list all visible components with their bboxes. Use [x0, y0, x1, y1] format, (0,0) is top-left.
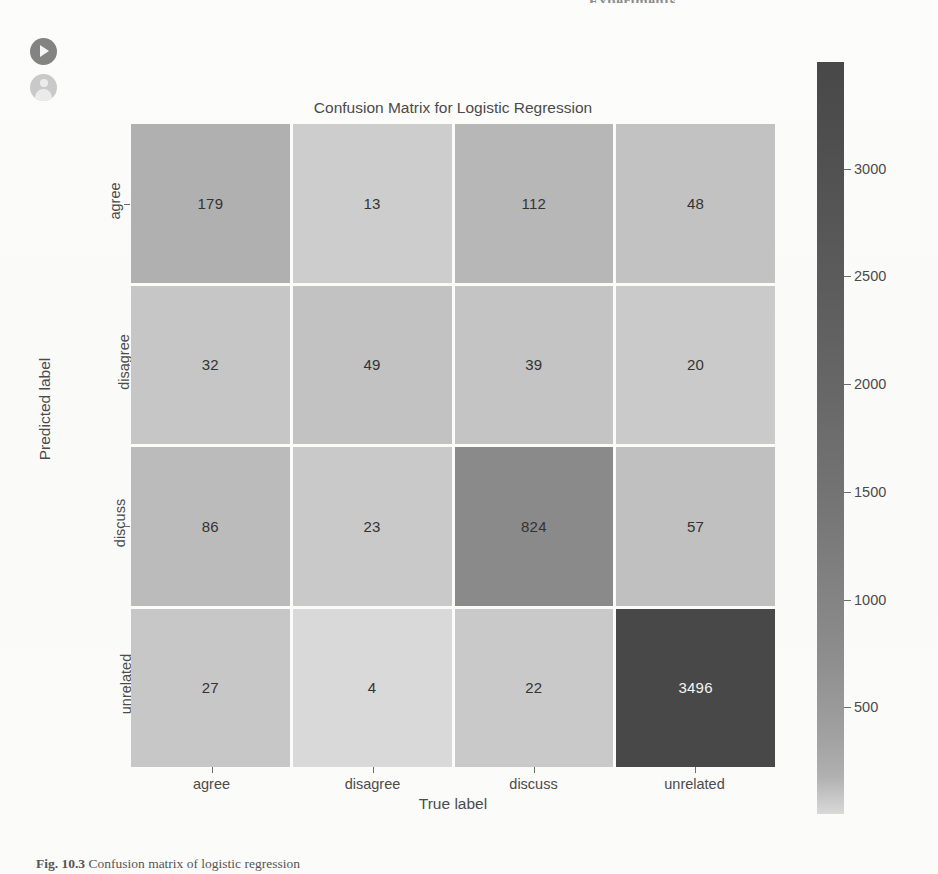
- matrix-cell: 32: [131, 286, 290, 445]
- y-tick-label: discuss: [96, 515, 122, 531]
- matrix-cell-value: 57: [687, 518, 704, 535]
- matrix-cell-value: 3496: [679, 679, 713, 696]
- matrix-cell-value: 86: [202, 518, 219, 535]
- colorbar-tick-mark: [844, 707, 851, 708]
- x-axis-label: True label: [131, 795, 775, 813]
- matrix-cell-value: 13: [364, 195, 381, 212]
- x-tick-label: unrelated: [614, 776, 775, 792]
- matrix-cell-value: 27: [202, 679, 219, 696]
- colorbar-tick-label: 1000: [854, 592, 886, 608]
- y-tick-mark: [124, 526, 130, 527]
- colorbar-tick-mark: [844, 492, 851, 493]
- caption-number: Fig. 10.3: [36, 856, 85, 871]
- y-tick-label: unrelated: [96, 676, 122, 692]
- matrix-cell-value: 4: [368, 679, 377, 696]
- chart-title: Confusion Matrix for Logistic Regression: [131, 99, 775, 117]
- matrix-cell: 27: [131, 609, 290, 768]
- heatmap-plot-area: 179131124832493920862382457274223496: [131, 124, 775, 767]
- colorbar-tick-mark: [844, 600, 851, 601]
- matrix-cell-value: 23: [364, 518, 381, 535]
- x-tick-mark: [373, 767, 374, 773]
- y-axis-label: Predicted label: [36, 309, 54, 509]
- colorbar-tick-label: 2000: [854, 376, 886, 392]
- matrix-cell: 39: [455, 286, 614, 445]
- figure-caption: Fig. 10.3 Confusion matrix of logistic r…: [36, 855, 856, 874]
- matrix-cell-value: 20: [687, 356, 704, 373]
- colorbar-tick-label: 2500: [854, 268, 886, 284]
- colorbar-gradient: [817, 62, 844, 814]
- colorbar-tick-mark: [844, 169, 851, 170]
- x-tick-label: agree: [131, 776, 292, 792]
- x-tick-mark: [695, 767, 696, 773]
- matrix-cell: 49: [293, 286, 452, 445]
- matrix-cell-value: 112: [522, 195, 547, 212]
- matrix-cell: 48: [616, 124, 775, 283]
- y-tick-mark: [124, 204, 130, 205]
- caption-text: Confusion matrix of logistic regression: [89, 856, 300, 871]
- matrix-cell-value: 22: [525, 679, 542, 696]
- confusion-matrix-grid: 179131124832493920862382457274223496: [131, 124, 775, 767]
- matrix-cell-value: 824: [521, 518, 547, 535]
- matrix-cell: 23: [293, 447, 452, 606]
- matrix-cell: 179: [131, 124, 290, 283]
- x-tick-label: disagree: [292, 776, 453, 792]
- colorbar-tick-label: 500: [854, 699, 878, 715]
- matrix-cell: 13: [293, 124, 452, 283]
- x-tick-mark: [212, 767, 213, 773]
- matrix-cell: 824: [455, 447, 614, 606]
- colorbar-tick-mark: [844, 276, 851, 277]
- y-tick-label: agree: [96, 193, 122, 209]
- matrix-cell-value: 32: [202, 356, 219, 373]
- matrix-cell: 22: [455, 609, 614, 768]
- matrix-cell-value: 48: [687, 195, 704, 212]
- matrix-cell-value: 49: [364, 356, 381, 373]
- colorbar-tick-label: 1500: [854, 484, 886, 500]
- confusion-matrix-figure: Confusion Matrix for Logistic Regression…: [0, 0, 938, 874]
- matrix-cell-value: 179: [198, 195, 224, 212]
- matrix-cell: 112: [455, 124, 614, 283]
- x-tick-label: discuss: [453, 776, 614, 792]
- matrix-cell: 57: [616, 447, 775, 606]
- matrix-cell-value: 39: [525, 356, 542, 373]
- colorbar-tick-label: 3000: [854, 161, 886, 177]
- y-tick-label: disagree: [96, 354, 122, 370]
- matrix-cell: 20: [616, 286, 775, 445]
- x-tick-mark: [534, 767, 535, 773]
- colorbar-tick-mark: [844, 384, 851, 385]
- matrix-cell: 4: [293, 609, 452, 768]
- y-tick-mark: [124, 687, 130, 688]
- y-tick-mark: [124, 365, 130, 366]
- matrix-cell: 3496: [616, 609, 775, 768]
- matrix-cell: 86: [131, 447, 290, 606]
- colorbar: 30002500200015001000500: [817, 62, 937, 814]
